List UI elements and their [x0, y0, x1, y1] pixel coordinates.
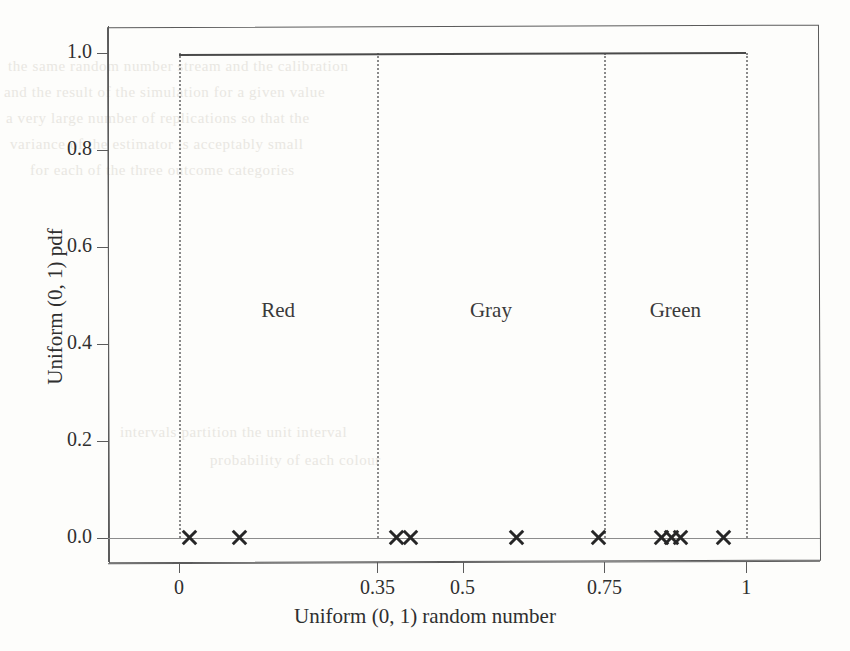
x-axis: 00.350.50.751	[108, 562, 820, 602]
x-tick-mark	[463, 562, 464, 573]
x-tick-mark	[746, 562, 747, 573]
data-point-marker	[714, 528, 734, 548]
figure-page: the same random number stream and the ca…	[0, 0, 850, 651]
x-axis-title: Uniform (0, 1) random number	[0, 604, 850, 629]
region-label-red: Red	[261, 297, 295, 322]
y-tick-mark	[97, 344, 108, 345]
y-tick-mark	[97, 150, 108, 151]
region-label-green: Green	[650, 297, 701, 322]
plot-area: RedGrayGreen	[108, 26, 820, 562]
region-divider-line	[604, 53, 606, 538]
x-tick-label: 0	[174, 576, 184, 599]
y-tick-mark	[97, 441, 108, 442]
x-tick-mark	[179, 562, 180, 573]
x-tick-mark	[377, 562, 378, 573]
x-tick-label: 1	[741, 576, 751, 599]
x-tick-label: 0.35	[360, 576, 395, 599]
data-point-marker	[506, 528, 526, 548]
region-label-gray: Gray	[470, 297, 512, 322]
y-tick-mark	[97, 538, 108, 539]
uniform-pdf-line	[179, 52, 746, 56]
y-tick-mark	[97, 53, 108, 54]
y-axis-line	[108, 26, 109, 562]
y-axis-title: Uniform (0, 1) pdf	[43, 72, 68, 542]
region-divider-line	[377, 53, 379, 538]
x-tick-label: 0.5	[450, 576, 475, 599]
x-tick-label: 0.75	[587, 576, 622, 599]
data-point-marker	[179, 528, 199, 548]
x-axis-line	[108, 561, 820, 564]
data-point-marker	[589, 528, 609, 548]
data-point-marker	[401, 528, 421, 548]
region-divider-line	[179, 53, 181, 538]
region-divider-line	[746, 53, 748, 538]
y-tick-label: 1.0	[0, 40, 92, 63]
x-tick-mark	[604, 562, 605, 573]
data-point-marker	[229, 528, 249, 548]
y-tick-mark	[97, 247, 108, 248]
data-point-marker	[670, 528, 690, 548]
